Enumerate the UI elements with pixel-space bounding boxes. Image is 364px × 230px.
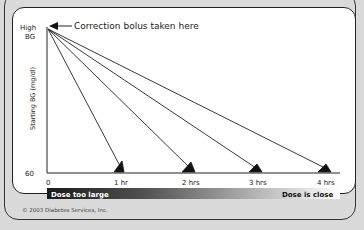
x-tick-4: 4 hrs <box>317 179 335 187</box>
bolus-timing-diagram: Correction bolus taken here High BG 60 S… <box>0 0 364 230</box>
x-tick-1: 1 hr <box>114 179 128 187</box>
y-bottom-label: 60 <box>25 170 34 178</box>
x-tick-2: 2 hrs <box>182 179 200 187</box>
gradient-right-label: Dose is close <box>282 191 333 199</box>
x-tick-3: 3 hrs <box>249 179 267 187</box>
y-axis-label: Starting BG (mg/dl) <box>29 67 37 130</box>
copyright-text: © 2003 Diabetes Services, Inc. <box>22 207 108 213</box>
x-tick-0: 0 <box>46 179 50 187</box>
y-top-label-high: High <box>20 24 36 32</box>
annotation-text: Correction bolus taken here <box>74 21 199 31</box>
y-top-label-bg: BG <box>25 33 35 41</box>
gradient-left-label: Dose too large <box>51 191 109 199</box>
